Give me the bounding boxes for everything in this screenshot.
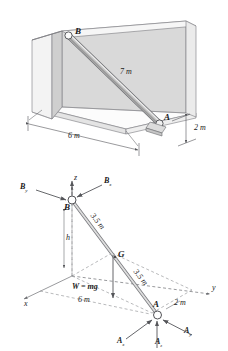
label-axis-y: y	[212, 284, 216, 292]
force-ax-sub: x	[122, 342, 124, 347]
mechanics-figure: B A 7 m 6 m 2 m	[0, 0, 228, 351]
label-force-weight: W = mg	[72, 283, 98, 291]
force-bx-sub: x	[109, 182, 111, 187]
dimension-6m-fbd	[40, 291, 150, 314]
bottom-diagram-graphics	[0, 0, 228, 351]
label-point-a-fbd: A	[153, 300, 159, 309]
label-point-g: G	[118, 250, 125, 259]
label-force-ay: Ay	[184, 327, 192, 338]
force-by-sub: y	[25, 188, 27, 193]
label-force-az: Az	[155, 338, 162, 349]
axes	[24, 186, 210, 299]
label-dim-6m-fbd: 6 m	[78, 296, 90, 304]
force-az-sub: z	[160, 343, 162, 348]
label-dim-2m-fbd: 2 m	[174, 299, 186, 307]
label-force-by: By	[20, 183, 28, 194]
force-ay-sub: y	[189, 332, 191, 337]
label-force-ax: Ax	[117, 337, 125, 348]
label-force-bx: Bx	[104, 177, 112, 188]
label-point-b-fbd: B	[64, 203, 70, 212]
label-axis-z: z	[74, 174, 77, 182]
label-dim-h: h	[66, 234, 70, 242]
label-axis-x: x	[24, 300, 28, 308]
